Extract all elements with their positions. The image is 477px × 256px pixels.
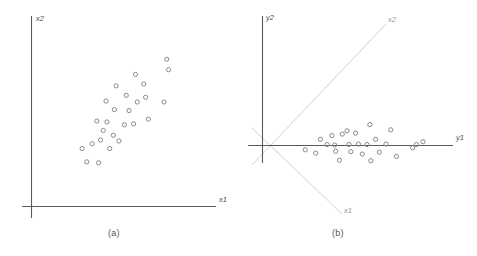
figure-container: x2 x1 (a) y2 x2 y1 x1 (b) xyxy=(0,0,477,256)
data-point xyxy=(117,139,121,143)
panel-b-x-axis-label: y1 xyxy=(456,133,464,142)
data-point xyxy=(142,82,146,86)
data-point xyxy=(143,95,147,99)
data-point xyxy=(112,108,116,112)
panel-b-y-axis-label: y2 xyxy=(266,13,274,22)
data-point xyxy=(394,154,398,158)
data-point xyxy=(389,128,393,132)
data-point xyxy=(114,84,118,88)
data-point xyxy=(80,146,84,150)
data-point xyxy=(132,122,136,126)
data-point xyxy=(108,146,112,150)
data-point xyxy=(162,100,166,104)
data-point xyxy=(354,131,358,135)
data-point xyxy=(345,129,349,133)
panel-b-rotated-x2-axis-label: x2 xyxy=(388,15,396,24)
data-point xyxy=(85,160,89,164)
data-point xyxy=(135,100,139,104)
data-point xyxy=(124,93,128,97)
panel-b-rotated-x2-axis xyxy=(252,24,386,165)
data-point xyxy=(377,150,381,154)
data-point xyxy=(334,149,338,153)
panel-a-y-axis-label: x2 xyxy=(36,14,44,23)
data-point xyxy=(146,117,150,121)
data-point xyxy=(360,152,364,156)
data-point xyxy=(340,132,344,136)
data-point xyxy=(90,142,94,146)
panel-a-plot xyxy=(0,0,240,230)
panel-b-plot xyxy=(240,0,477,230)
panel-b-rotated-x1-axis xyxy=(252,128,342,214)
panel-b-rotated-x1-axis-label: x1 xyxy=(344,206,352,215)
data-point xyxy=(165,57,169,61)
data-point xyxy=(318,137,322,141)
data-point xyxy=(95,119,99,123)
data-point xyxy=(411,146,415,150)
data-point xyxy=(368,123,372,127)
panel-a-x-axis-label: x1 xyxy=(219,195,227,204)
data-point xyxy=(97,161,101,165)
data-point xyxy=(111,133,115,137)
data-point xyxy=(127,108,131,112)
data-point xyxy=(105,120,109,124)
data-point xyxy=(314,151,318,155)
data-point xyxy=(133,72,137,76)
data-point xyxy=(349,150,353,154)
data-point xyxy=(330,133,334,137)
data-point xyxy=(104,99,108,103)
data-point xyxy=(101,128,105,132)
data-point xyxy=(421,140,425,144)
data-point xyxy=(373,137,377,141)
data-point xyxy=(337,158,341,162)
data-point xyxy=(369,159,373,163)
panel-b-point-group xyxy=(303,123,425,163)
data-point xyxy=(122,123,126,127)
panel-a-caption: (a) xyxy=(108,228,120,238)
data-point xyxy=(166,68,170,72)
data-point xyxy=(303,148,307,152)
panel-a-point-group xyxy=(80,57,171,165)
data-point xyxy=(98,138,102,142)
panel-b-caption: (b) xyxy=(332,228,344,238)
